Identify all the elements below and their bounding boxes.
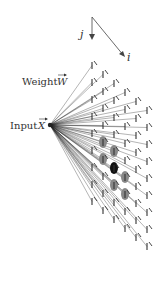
neuron-tick <box>149 208 152 212</box>
neuron-tick <box>149 123 152 127</box>
axis-arrows <box>89 17 125 57</box>
neuron-tick <box>149 225 152 229</box>
neuron-tick <box>138 182 141 186</box>
neuron-tick <box>138 114 141 118</box>
neuron-tick <box>127 105 130 109</box>
neuron-tick <box>105 121 108 125</box>
neuron-tick <box>94 129 97 133</box>
weight-line <box>50 125 92 151</box>
weight-label: Weight <box>22 76 57 87</box>
neuron-tick <box>127 207 130 211</box>
arrowhead-icon <box>45 118 48 121</box>
input-label: Input <box>10 120 37 131</box>
weight-line <box>50 125 147 196</box>
weight-connections <box>48 66 147 247</box>
neuron-tick <box>138 199 141 203</box>
neuron-tick <box>138 97 141 101</box>
neuron-tick <box>138 131 141 135</box>
neuron-tick <box>116 96 119 100</box>
som-diagram: j i Weight W Input X <box>0 0 159 291</box>
weight-line <box>50 125 147 213</box>
neuron-tick <box>149 242 152 246</box>
neuron-tick <box>149 191 152 195</box>
neuron-tick <box>127 156 130 160</box>
neuron-tick <box>138 165 141 169</box>
axis-j-label: j <box>77 28 84 41</box>
axis-i-arrow <box>92 17 124 56</box>
neuron-tick <box>127 122 130 126</box>
weight-symbol: W <box>57 76 68 87</box>
neuron-tick <box>94 197 97 201</box>
neuron-tick <box>138 148 141 152</box>
neuron-tick <box>105 104 108 108</box>
lattice-figure: j i Weight W Input X <box>0 0 159 291</box>
weight-line <box>50 111 147 126</box>
neuron-tick <box>116 79 119 83</box>
neuron-tick <box>149 174 152 178</box>
input-node <box>48 123 52 127</box>
weight-line <box>50 125 136 170</box>
neuron-tick <box>138 233 141 237</box>
input-symbol: X <box>37 120 46 131</box>
axis-i-label: i <box>127 51 131 64</box>
neuron-tick <box>105 70 108 74</box>
arrowhead-icon <box>89 34 95 40</box>
neuron-tick <box>138 216 141 220</box>
weight-line <box>50 102 136 126</box>
arrowhead-icon <box>119 51 125 57</box>
neuron-tick <box>149 140 152 144</box>
neuron-tick <box>149 106 152 110</box>
neuron-tick <box>94 61 97 65</box>
neuron-tick <box>149 157 152 161</box>
neuron-tick <box>127 88 130 92</box>
neuron-tick <box>105 206 108 210</box>
